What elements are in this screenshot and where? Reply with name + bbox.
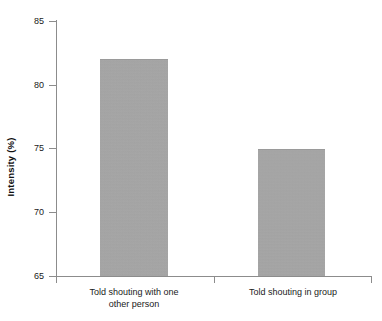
bar-chart-figure: Intensity (%) 85 80 75 70 65 Told shouti… <box>0 0 382 321</box>
y-axis-title: Intensity (%) <box>4 112 18 222</box>
y-tick-mark <box>49 212 56 213</box>
y-tick-label: 70 <box>4 208 44 217</box>
y-tick-label: 80 <box>4 81 44 90</box>
y-axis-line <box>56 20 57 277</box>
y-tick-label: 65 <box>4 272 44 281</box>
x-category-label-1-line-1: Told shouting with one <box>54 286 214 298</box>
y-tick-mark <box>49 85 56 86</box>
x-tick-mark-middle <box>214 277 215 283</box>
x-category-label-1: Told shouting with one other person <box>54 286 214 310</box>
y-tick-mark <box>49 21 56 22</box>
bar-told-shouting-in-group <box>258 149 325 277</box>
x-category-label-1-line-2: other person <box>54 298 214 310</box>
y-tick-mark <box>49 276 56 277</box>
y-tick-label: 75 <box>4 144 44 153</box>
y-tick-label: 85 <box>4 17 44 26</box>
y-tick-mark <box>49 148 56 149</box>
x-tick-mark-right <box>371 277 372 283</box>
x-category-label-2: Told shouting in group <box>214 286 372 298</box>
x-category-label-2-line-1: Told shouting in group <box>214 286 372 298</box>
bar-told-shouting-with-one-other-person <box>100 59 168 276</box>
x-tick-mark-left <box>56 277 57 283</box>
